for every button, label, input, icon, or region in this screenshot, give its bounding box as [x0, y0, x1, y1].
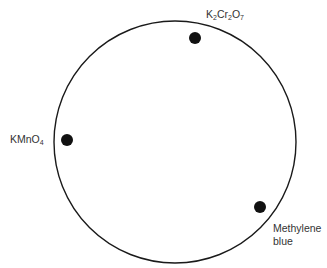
label-line-1: Methylene — [273, 222, 321, 235]
label-k2cr2o7: K2Cr2O7 — [206, 8, 244, 21]
outer-circle — [54, 21, 296, 263]
label-subscript: 4 — [40, 139, 44, 146]
label-methylene-blue: Methylene blue — [273, 222, 321, 248]
spot-kmno4 — [61, 134, 73, 146]
label-kmno4: KMnO4 — [10, 133, 44, 146]
label-text: Cr — [217, 8, 228, 20]
label-text: O — [232, 8, 240, 20]
label-subscript: 7 — [240, 14, 244, 21]
spot-methylene-blue — [254, 201, 266, 213]
label-text: K — [206, 8, 213, 20]
label-text: KMnO — [10, 133, 40, 145]
label-line-2: blue — [273, 235, 321, 248]
spot-k2cr2o7 — [189, 32, 201, 44]
